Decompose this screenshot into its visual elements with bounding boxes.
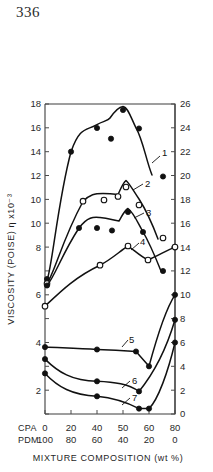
curve-6-line: [45, 320, 175, 392]
y-axis-title: VISCOSITY (POISE) η x10⁻³: [6, 193, 16, 324]
cpa-tick-label: 50: [118, 422, 129, 433]
x-axis-title: MIXTURE COMPOSITION (wt %): [33, 453, 184, 463]
cpa-tick-label: 40: [92, 422, 103, 433]
left-tick-label: 16: [30, 122, 41, 133]
curve-4-leader: [131, 243, 139, 250]
x-axis-cpa-ticklabels: 0 20 40 50 60 80: [42, 422, 180, 433]
curve-3-markers: [44, 209, 165, 288]
right-tick-label: 8: [180, 313, 185, 324]
curve-4-label: 4: [140, 236, 145, 247]
left-tick-label: 2: [36, 385, 41, 396]
curve-4-line: [45, 246, 175, 306]
cpa-tick-label: 0: [42, 422, 47, 433]
curve-5-label: 5: [129, 334, 134, 345]
curve-3-line: [47, 209, 161, 286]
chart-svg: 2 4 6 8 10 12 14 16 18 10 0 2 4 6 8 10: [0, 0, 213, 472]
right-tick-label: 10: [180, 289, 191, 300]
left-axis-upper-labels: 10: [30, 218, 41, 229]
curve-1-leader: [152, 156, 160, 163]
left-tick-label: 10: [30, 194, 41, 205]
right-tick-label: 18: [180, 194, 191, 205]
right-tick-label: 12: [180, 265, 191, 276]
pdm-tick-label: 100: [37, 434, 53, 445]
left-tick-label: 18: [30, 98, 41, 109]
left-axis-ticks: [45, 104, 49, 414]
pdm-tick-label: 60: [92, 434, 103, 445]
curve-5-leader: [122, 340, 128, 347]
cpa-tick-label: 60: [144, 422, 155, 433]
curve-3-leader: [134, 213, 144, 218]
curve-5-line: [45, 295, 175, 367]
curve-2-label: 2: [145, 178, 150, 189]
right-tick-label: 24: [180, 122, 191, 133]
curve-3-label: 3: [146, 207, 151, 218]
right-tick-label: 6: [180, 337, 185, 348]
left-tick-label: 14: [30, 146, 41, 157]
curve-5-markers: [42, 292, 177, 369]
pdm-tick-label: 0: [172, 434, 177, 445]
curve-6-label: 6: [132, 375, 137, 386]
left-tick-label: 4: [36, 337, 41, 348]
curve-2-markers: [44, 184, 166, 286]
viscosity-chart-figure: 2 4 6 8 10 12 14 16 18 10 0 2 4 6 8 10: [0, 0, 213, 472]
right-tick-label: 16: [180, 218, 191, 229]
right-tick-label: 22: [180, 146, 191, 157]
right-tick-label: 14: [180, 242, 191, 253]
x-axis-row-label-pdm: PDM: [18, 435, 39, 445]
right-tick-label: 4: [180, 361, 185, 372]
curve-7-line: [45, 343, 175, 409]
x-axis-pdm-ticklabels: 100 80 60 40 20 0: [37, 434, 178, 445]
pdm-tick-label: 20: [144, 434, 155, 445]
cpa-tick-label: 80: [170, 422, 181, 433]
right-tick-label: 0: [180, 408, 185, 419]
x-axis-row-label-cpa: CPA: [18, 423, 37, 433]
x-axis-ticks: [45, 410, 175, 414]
right-tick-label: 20: [180, 170, 191, 181]
right-tick-label: 2: [180, 385, 185, 396]
left-tick-label: 8: [36, 242, 41, 253]
pdm-tick-label: 80: [66, 434, 77, 445]
curve-4-markers: [42, 243, 178, 309]
cpa-tick-label: 20: [66, 422, 77, 433]
left-tick-label: 6: [36, 289, 41, 300]
left-axis-tick-labels: 2 4 6 8 10 12 14 16 18: [30, 98, 41, 395]
pdm-tick-label: 40: [118, 434, 129, 445]
curve-2-leader: [133, 184, 143, 190]
right-tick-label: 26: [180, 98, 191, 109]
left-tick-label: 12: [30, 170, 41, 181]
left-tick-label-10: 10: [30, 218, 41, 229]
right-axis-ticks: [171, 104, 175, 414]
curve-1-label: 1: [162, 147, 167, 158]
right-axis-tick-labels: 0 2 4 6 8 10 12 14 16 18 20 22 24 26: [180, 98, 191, 419]
curve-7-label: 7: [132, 392, 137, 403]
